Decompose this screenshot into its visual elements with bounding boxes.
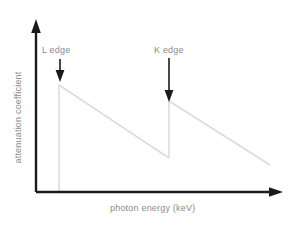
above-k-edge-falloff-line [169,101,270,165]
y-axis-label: attenuation coefficient [13,58,24,178]
l-edge-label: L edge [42,45,70,56]
l-edge-pointer [56,59,65,82]
between-edges-falloff-line [59,85,169,158]
k-edge-pointer [165,58,174,102]
y-axis [31,19,41,192]
arrow-right-icon [269,187,283,197]
plot-canvas [0,0,298,228]
arrow-down-icon [56,70,65,82]
attenuation-coefficient-figure: L edge K edge photon energy (keV) attenu… [0,0,298,228]
arrow-up-icon [31,19,41,33]
arrow-down-icon [165,90,174,102]
attenuation-curve [59,85,270,192]
x-axis-label: photon energy (keV) [110,203,195,214]
x-axis [36,187,283,197]
k-edge-label: K edge [154,45,184,56]
